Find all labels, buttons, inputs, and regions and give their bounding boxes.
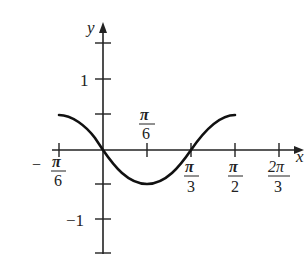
svg-text:−: −: [32, 156, 41, 173]
svg-text:π: π: [185, 158, 195, 175]
svg-text:3: 3: [274, 178, 282, 195]
x-tick-label-pi-3: π 3: [184, 158, 199, 195]
y-tick-label-minus-1: −1: [66, 211, 84, 230]
svg-text:6: 6: [54, 172, 62, 189]
y-axis-label: y: [85, 18, 95, 37]
x-tick-label-2pi-3: 2π 3: [268, 158, 290, 195]
y-axis-arrow-icon: [99, 22, 107, 33]
svg-text:π: π: [229, 158, 239, 175]
y-tick-label-1: 1: [80, 71, 89, 90]
function-graph: y x 1 −1 π 6 − π 6 π 3 π 2 2π 3: [0, 0, 304, 254]
x-tick-label-pi-2: π 2: [228, 158, 243, 195]
svg-text:2π: 2π: [268, 158, 285, 175]
svg-text:2: 2: [231, 178, 239, 195]
x-tick-label-pi-6: π 6: [139, 106, 155, 142]
x-axis-label: x: [295, 147, 304, 166]
svg-text:π: π: [140, 106, 150, 123]
svg-text:π: π: [52, 153, 62, 170]
svg-text:6: 6: [142, 125, 150, 142]
svg-text:3: 3: [187, 178, 195, 195]
x-tick-label-minus-pi-6: − π 6: [32, 153, 66, 189]
